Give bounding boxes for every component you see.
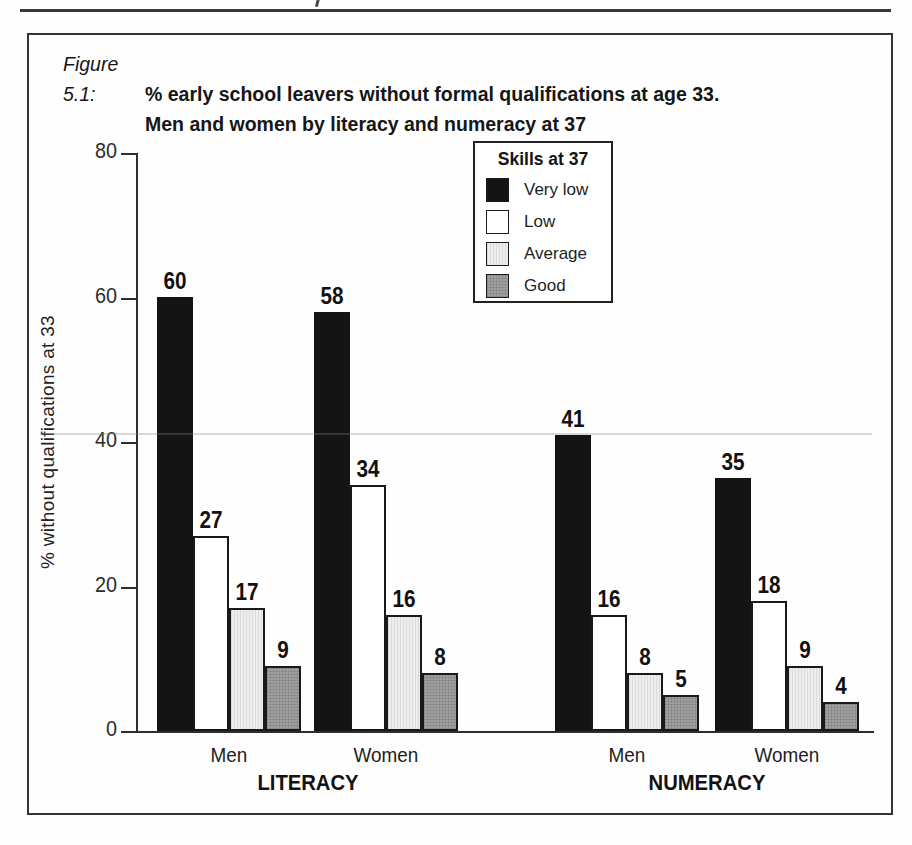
figure-number: Figure 5.1:	[63, 49, 145, 109]
bar-literacy-women-average	[386, 615, 422, 731]
y-axis-tick	[121, 153, 136, 155]
y-tick-label: 60	[70, 283, 117, 309]
y-tick-label: 80	[70, 138, 117, 164]
bar-numeracy-men-low	[591, 615, 627, 731]
y-tick-label: 0	[70, 716, 117, 742]
y-axis-tick	[121, 298, 136, 300]
category-label-numeracy-women: Women	[755, 743, 820, 767]
legend: Skills at 37 Very lowLowAverageGood	[473, 141, 613, 303]
bar-literacy-women-good	[422, 673, 458, 731]
bar-value-label: 9	[277, 638, 289, 662]
bar-numeracy-men-very-low	[555, 435, 591, 731]
bar-literacy-women-very-low	[314, 312, 350, 731]
page-header-rule	[20, 9, 891, 12]
group-label-numeracy: NUMERACY	[649, 770, 766, 796]
bar-numeracy-women-very-low	[715, 478, 751, 731]
legend-item-average: Average	[486, 242, 611, 266]
bar-value-label: 9	[799, 638, 811, 662]
bar-value-label: 8	[434, 645, 446, 669]
figure-title-text: % early school leavers without formal qu…	[145, 83, 719, 105]
legend-swatch-very-low	[486, 178, 509, 202]
y-axis-tick	[121, 587, 136, 589]
bar-numeracy-men-average	[627, 673, 663, 731]
bar-value-label: 60	[163, 269, 186, 293]
bar-numeracy-men-good	[663, 695, 699, 731]
bar-value-label: 18	[757, 573, 780, 597]
scanned-page: Figure 5.1:% early school leavers withou…	[0, 0, 912, 845]
page-header-text-fragment	[315, 0, 320, 7]
legend-label-very-low: Very low	[524, 180, 588, 200]
legend-item-low: Low	[486, 210, 611, 234]
bar-literacy-men-very-low	[157, 297, 193, 731]
bar-value-label: 27	[199, 508, 222, 532]
bar-value-label: 41	[561, 407, 584, 431]
bar-value-label: 16	[392, 587, 415, 611]
bar-numeracy-women-good	[823, 702, 859, 731]
bar-value-label: 34	[356, 457, 379, 481]
bar-literacy-men-average	[229, 608, 265, 731]
figure-title-line2: Men and women by literacy and numeracy a…	[145, 109, 783, 139]
legend-item-very-low: Very low	[486, 178, 611, 202]
bar-value-label: 8	[639, 645, 651, 669]
figure-title: Figure 5.1:% early school leavers withou…	[63, 49, 783, 139]
bar-value-label: 35	[721, 450, 744, 474]
legend-label-average: Average	[524, 244, 587, 264]
group-label-literacy: LITERACY	[257, 770, 358, 796]
bar-value-label: 58	[320, 284, 343, 308]
legend-items: Very lowLowAverageGood	[475, 178, 611, 298]
figure-title-line1: Figure 5.1:% early school leavers withou…	[63, 49, 783, 109]
category-label-literacy-men: Men	[211, 743, 248, 767]
legend-swatch-good	[486, 274, 509, 298]
bar-numeracy-women-low	[751, 601, 787, 731]
y-axis-title: % without qualifications at 33	[30, 153, 66, 731]
y-tick-label: 20	[70, 572, 117, 598]
legend-item-good: Good	[486, 274, 611, 298]
bar-value-label: 5	[675, 667, 687, 691]
bar-numeracy-women-average	[787, 666, 823, 731]
bar-value-label: 17	[235, 580, 258, 604]
legend-label-good: Good	[524, 276, 566, 296]
category-label-literacy-women: Women	[354, 743, 419, 767]
category-label-numeracy-men: Men	[609, 743, 646, 767]
legend-swatch-low	[486, 210, 509, 234]
y-tick-label: 40	[70, 427, 117, 453]
bar-value-label: 4	[835, 674, 847, 698]
bar-literacy-men-good	[265, 666, 301, 731]
legend-swatch-average	[486, 242, 509, 266]
legend-label-low: Low	[524, 212, 555, 232]
y-axis-tick	[121, 442, 136, 444]
y-axis-tick	[121, 731, 136, 733]
bar-literacy-men-low	[193, 536, 229, 731]
bar-value-label: 16	[597, 587, 620, 611]
bar-literacy-women-low	[350, 485, 386, 731]
legend-title: Skills at 37	[475, 148, 611, 170]
